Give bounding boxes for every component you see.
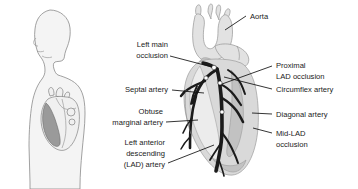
marginal-branch-lower [181,137,190,149]
label-lad-line2: descending [126,149,165,158]
label-obtuse-marginal-line1: Obtuse [139,107,163,116]
label-obtuse-marginal-line2: marginal artery [112,118,163,127]
great-vessels-small [49,88,54,97]
vessel-ostium-small [69,119,75,125]
left-main-occlusion-marker [212,65,217,70]
label-mid-lad-line2: occlusion [276,140,308,149]
label-lad-line3: (LAD) artery [124,160,166,169]
heart-detail [181,4,258,176]
label-diagonal-artery: Diagonal artery [276,110,328,119]
label-mid-lad-line1: Mid-LAD [276,129,306,138]
coronary-occlusion-figure: Left main occlusion Septal artery Obtuse… [0,0,358,189]
proximal-lad-occlusion-marker [218,81,222,85]
torso-silhouette [29,10,85,189]
label-circumflex-artery: Circumflex artery [276,85,334,94]
label-lad-line1: Left anterior [124,138,165,147]
circumflex-occlusion-marker [204,76,208,80]
left-subclavian [216,5,221,20]
atrial-appendage-small [67,108,75,116]
label-septal-artery: Septal artery [125,85,168,94]
label-aorta: Aorta [250,12,269,21]
label-left-main-occlusion-line2: occlusion [136,51,168,60]
mid-lad-occlusion-marker [220,110,224,114]
left-common-carotid [208,4,213,19]
label-proximal-lad-line1: Proximal [276,61,306,70]
label-left-main-occlusion-line1: Left main [137,40,168,49]
label-proximal-lad-line2: LAD occlusion [276,72,325,81]
